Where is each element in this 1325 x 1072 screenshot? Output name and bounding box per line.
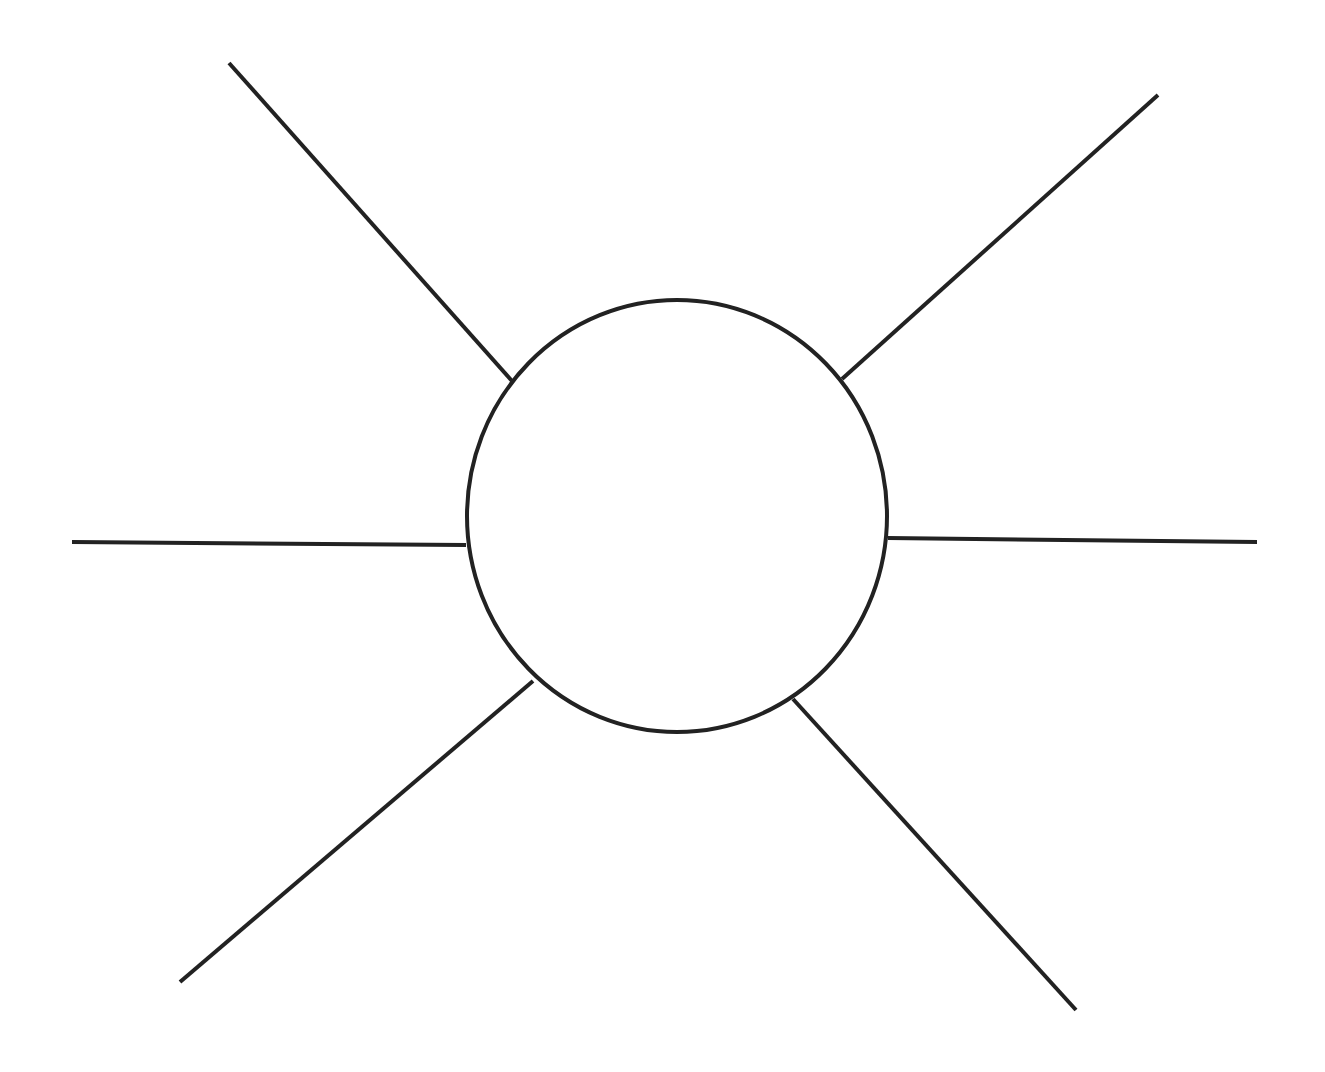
spoke-left [72, 542, 466, 545]
spider-diagram-canvas [0, 0, 1325, 1072]
spoke-upper-left [229, 63, 512, 381]
spoke-lower-right [793, 699, 1076, 1010]
central-circle [467, 300, 887, 732]
spoke-lower-left [180, 681, 533, 982]
spider-diagram [0, 0, 1325, 1072]
spoke-right [888, 538, 1257, 542]
spoke-upper-right [842, 95, 1158, 379]
